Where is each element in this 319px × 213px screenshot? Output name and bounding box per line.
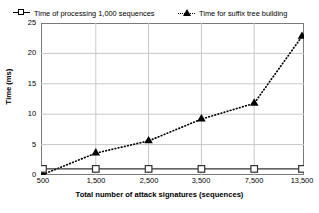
legend-label-suffix-tree: Time for suffix tree building — [199, 9, 287, 18]
open-square-marker-icon — [13, 8, 30, 18]
x-axis-title: Total number of attack signatures (seque… — [0, 190, 319, 199]
series-suffix-tree-line — [43, 36, 302, 174]
chart-container: Time of processing 1,000 sequences Time … — [0, 0, 319, 213]
y-axis-title: Time (ms) — [4, 52, 13, 122]
legend-label-processing: Time of processing 1,000 sequences — [34, 9, 155, 18]
x-tick-3500: 3,500 — [177, 177, 225, 185]
x-tick-1500: 1,500 — [72, 177, 120, 185]
legend-entry-suffix-tree: Time for suffix tree building — [178, 6, 287, 20]
grid-vertical — [96, 23, 254, 175]
x-tick-7500: 7,500 — [230, 177, 278, 185]
y-tick-5: 5 — [0, 141, 36, 149]
plot-area — [41, 23, 304, 175]
x-tick-13500: 13,500 — [278, 177, 319, 185]
x-tick-500: 500 — [19, 177, 67, 185]
y-tick-25: 25 — [0, 19, 36, 27]
filled-triangle-marker-icon — [178, 8, 195, 18]
plot-svg — [41, 23, 304, 175]
x-tick-2500: 2,500 — [125, 177, 173, 185]
chart-legend: Time of processing 1,000 sequences Time … — [0, 6, 319, 20]
